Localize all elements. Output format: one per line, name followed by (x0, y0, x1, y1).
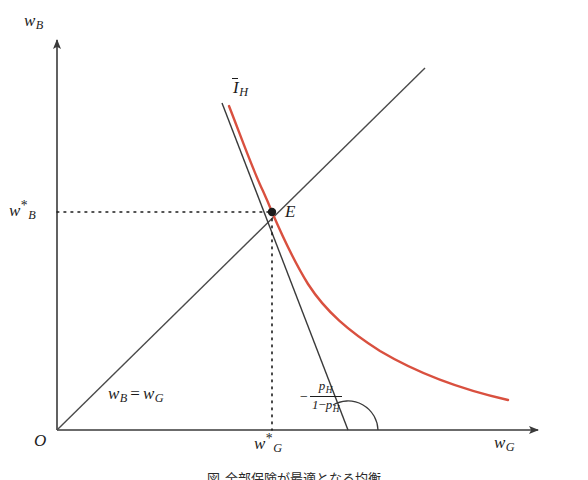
slope-den-op: − (318, 397, 325, 412)
slope-num-var: p (319, 378, 326, 393)
slope-sign: − (300, 390, 308, 404)
certainty-line-45deg (57, 68, 425, 430)
y-axis-label-sub: B (36, 18, 43, 32)
origin-label: O (34, 432, 46, 449)
slope-den-sub: H (333, 404, 340, 414)
indifference-curve-var: I (233, 78, 239, 97)
diagram-canvas (0, 0, 588, 480)
wb-star-var: w (9, 201, 20, 220)
x-axis-label-var: w (494, 433, 505, 452)
slope-fraction: pH 1−pH (310, 379, 342, 415)
equilibrium-point-label: E (285, 203, 295, 220)
slope-label: − pH 1−pH (300, 379, 342, 415)
slope-numerator: pH (317, 379, 335, 395)
certainty-rhs-sub: G (155, 391, 164, 405)
y-axis-label: wB (24, 12, 43, 32)
indifference-curve-label: IH (233, 78, 248, 99)
wg-star-sub: G (273, 441, 282, 455)
y-axis-label-var: w (24, 11, 35, 30)
figure-caption: 図 全部保険が最適となる均衡 (0, 468, 588, 480)
x-axis-label: wG (494, 434, 515, 454)
slope-denominator: 1−pH (310, 398, 342, 414)
certainty-lhs-sub: B (120, 391, 127, 405)
slope-num-sub: H (326, 385, 333, 395)
certainty-line-label: wB=wG (108, 385, 164, 405)
wb-star-sub: B (28, 208, 35, 222)
slope-den-var: p (326, 397, 333, 412)
wg-star-mark: * (266, 431, 273, 446)
y-tick-label-wb-star: w*B (9, 199, 36, 221)
figure-container: wB wG O w*B w*G wB=wG E IH − pH 1−pH 図 全… (0, 0, 588, 480)
certainty-lhs-var: w (108, 384, 119, 403)
indifference-curve-sub: H (239, 85, 248, 99)
certainty-rhs-var: w (143, 384, 154, 403)
certainty-relation: = (130, 384, 140, 403)
wg-star-var: w (254, 434, 265, 453)
x-tick-label-wg-star: w*G (254, 432, 282, 454)
equilibrium-point-marker (268, 208, 276, 216)
indifference-curve-overbar: I (233, 78, 239, 96)
indifference-curve-ih (229, 106, 508, 400)
x-axis-label-sub: G (506, 440, 515, 454)
wb-star-mark: * (21, 198, 28, 213)
